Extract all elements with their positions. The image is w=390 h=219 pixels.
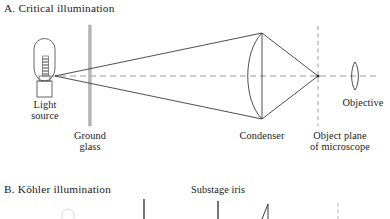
condenser-label: Condenser (227, 130, 297, 141)
substage-iris-label: Substage iris (172, 184, 264, 195)
panel-b-condenser-apex (262, 204, 268, 219)
panel-a-drawing (34, 25, 380, 126)
object-plane-label-line2: of microscope (296, 141, 384, 152)
ground-glass-label-line2: glass (58, 141, 122, 152)
objective-label: Objective (336, 97, 390, 108)
filament-coil (43, 59, 49, 74)
light-source-label-line1: Light (12, 99, 78, 110)
object-plane-label-line1: Object plane (296, 130, 384, 141)
optical-illumination-figure: A. Critical illumination Light source Gr… (0, 0, 390, 219)
light-source-label-line2: source (12, 110, 78, 121)
lamp-base (37, 81, 52, 97)
ground-glass-plate (89, 25, 92, 126)
panel-b-title: B. Köhler illumination (4, 183, 111, 195)
lamp-bulb-envelope (34, 39, 55, 82)
panel-a-title: A. Critical illumination (4, 2, 115, 14)
panel-b-drawing (62, 199, 338, 219)
ground-glass-label-line1: Ground (58, 130, 122, 141)
panel-b-lamp-outline (62, 209, 74, 219)
